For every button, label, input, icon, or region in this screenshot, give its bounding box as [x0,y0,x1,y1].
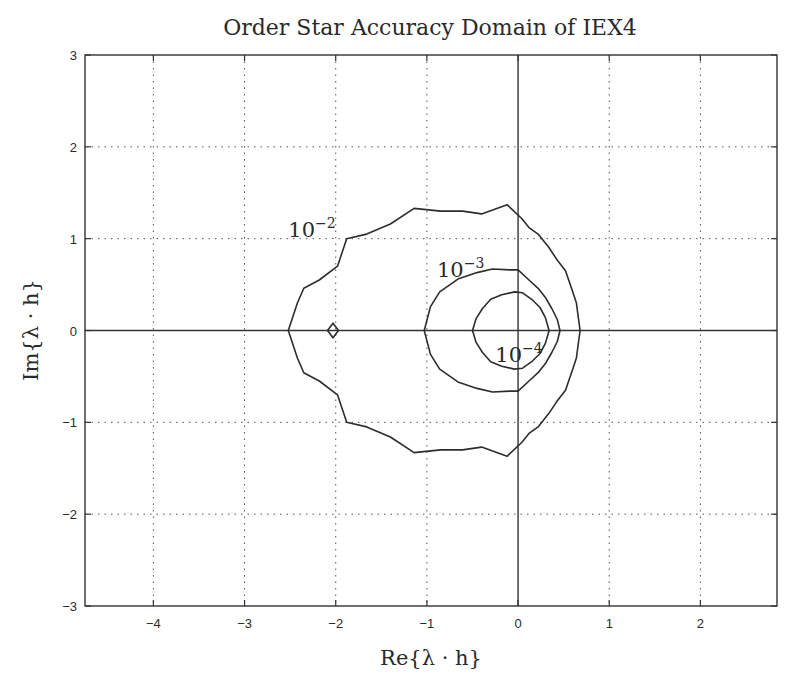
y-tick-label: −2 [62,507,77,522]
x-tick-label: −3 [237,616,252,631]
chart-title: Order Star Accuracy Domain of IEX4 [223,15,637,40]
y-axis-label: Im{λ · h} [19,279,43,381]
x-tick-label: 2 [697,616,704,631]
y-tick-label: −1 [62,415,77,430]
x-axis-ticks: −4−3−2−1012 [146,55,704,631]
order-star-chart: Order Star Accuracy Domain of IEX4 10−21… [0,0,798,699]
x-axis-label: Re{λ · h} [380,646,482,670]
x-tick-label: 0 [514,616,521,631]
y-tick-label: 2 [70,140,77,155]
contour-label: 10−2 [288,215,335,242]
contour-label: 10−3 [437,255,484,282]
contour-labels: 10−210−310−4 [288,215,542,367]
y-tick-label: 0 [70,324,77,339]
x-tick-label: −1 [419,616,434,631]
y-tick-label: 3 [70,48,77,63]
x-tick-label: −2 [328,616,343,631]
axes-reference-lines [85,55,777,606]
x-tick-label: −4 [146,616,161,631]
contour-label: 10−4 [495,340,542,367]
x-tick-label: 1 [606,616,613,631]
y-tick-label: 1 [70,232,77,247]
y-tick-label: −3 [62,599,77,614]
